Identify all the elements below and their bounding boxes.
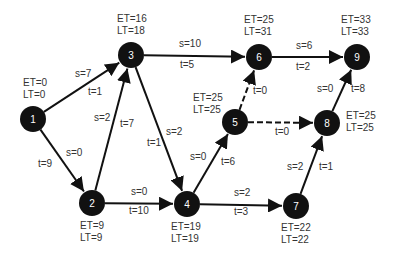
node-latest-time: LT=25: [193, 104, 221, 115]
node-9: 9: [344, 44, 370, 70]
edge-duration-label: t=6: [221, 156, 236, 167]
edge-slack-label: s=0: [190, 151, 207, 162]
node-latest-time: LT=25: [346, 122, 374, 133]
edge-duration-label: t=9: [38, 158, 53, 169]
node-number: 5: [232, 117, 238, 128]
edge-slack-label: s=0: [131, 186, 148, 197]
edge-3-6: [144, 55, 245, 57]
node-earliest-time: ET=16: [117, 13, 147, 24]
edge-slack-label: s=2: [166, 126, 183, 137]
node-latest-time: LT=31: [244, 26, 272, 37]
edge-slack-label: s=7: [75, 68, 92, 79]
node-number: 7: [293, 201, 299, 212]
node-latest-time: LT=33: [341, 26, 369, 37]
edge-duration-label: t=10: [129, 205, 149, 216]
edge-slack-label: s=0: [317, 83, 334, 94]
edge-duration-label: t=8: [351, 83, 366, 94]
node-number: 1: [30, 114, 36, 125]
node-latest-time: LT=9: [80, 232, 103, 243]
node-number: 4: [184, 199, 190, 210]
edge-duration-label: t=1: [88, 86, 103, 97]
edge-duration-label: t=1: [147, 137, 162, 148]
node-1: 1: [20, 106, 46, 132]
edge-slack-label: s=2: [287, 161, 304, 172]
edge-duration-label: t=1: [319, 161, 334, 172]
node-number: 2: [89, 198, 95, 209]
node-latest-time: LT=19: [171, 233, 199, 244]
node-5: 5: [222, 109, 248, 135]
edge-duration-label: t=0: [275, 126, 290, 137]
node-earliest-time: ET=33: [341, 14, 371, 25]
node-earliest-time: ET=9: [80, 220, 105, 231]
edge-5-8: [248, 122, 313, 123]
network-diagram: s=7t=1s=0t=9s=2t=7s=2t=1s=10t=5s=0t=10s=…: [0, 0, 398, 259]
edge-duration-label: t=3: [234, 206, 249, 217]
node-latest-time: LT=18: [117, 25, 145, 36]
node-earliest-time: ET=25: [193, 92, 223, 103]
node-8: 8: [314, 110, 340, 136]
edge-duration-label: t=5: [180, 59, 195, 70]
node-latest-time: LT=0: [23, 89, 46, 100]
node-4: 4: [174, 191, 200, 217]
edge-slack-label: s=10: [179, 38, 201, 49]
nodes-layer: 123456789: [20, 42, 370, 219]
edge-slack-label: s=6: [296, 40, 313, 51]
edge-slack-label: s=2: [234, 187, 251, 198]
edge-5-6: [240, 70, 255, 110]
node-number: 3: [128, 50, 134, 61]
node-earliest-time: ET=25: [346, 110, 376, 121]
node-7: 7: [283, 193, 309, 219]
edge-duration-label: t=2: [296, 61, 311, 72]
edge-8-9: [332, 70, 351, 111]
node-earliest-time: ET=0: [23, 77, 48, 88]
node-earliest-time: ET=19: [171, 221, 201, 232]
node-number: 6: [256, 52, 262, 63]
node-number: 8: [324, 118, 330, 129]
edge-slack-label: s=0: [66, 147, 83, 158]
node-3: 3: [118, 42, 144, 68]
edge-slack-label: s=2: [94, 112, 111, 123]
edge-duration-label: t=7: [120, 118, 135, 129]
node-2: 2: [79, 190, 105, 216]
edge-2-4: [105, 203, 173, 204]
node-earliest-time: ET=25: [244, 14, 274, 25]
node-6: 6: [246, 44, 272, 70]
edge-duration-label: t=0: [253, 85, 268, 96]
node-latest-time: LT=22: [281, 234, 309, 245]
node-number: 9: [354, 52, 360, 63]
node-earliest-time: ET=22: [281, 222, 311, 233]
